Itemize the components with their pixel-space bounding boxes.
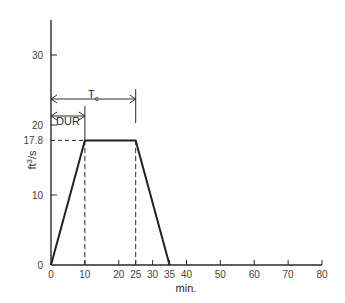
- tc-label: Tc: [88, 88, 99, 103]
- dur-label: DUR: [56, 115, 80, 127]
- y-tick-label: 10: [32, 190, 44, 201]
- x-tick-label: 20: [113, 269, 125, 280]
- y-tick-label: 30: [32, 50, 44, 61]
- x-tick-label: 60: [249, 269, 261, 280]
- y-tick-label: 20: [32, 120, 44, 131]
- y-tick-label: 17.8: [24, 135, 44, 146]
- axis-ticks: 01020253035405060708001017.82030: [24, 50, 328, 280]
- hydrograph-chart: 01020253035405060708001017.82030 min. ft…: [0, 0, 345, 303]
- y-axis-label: ft3/s: [25, 150, 38, 170]
- hydrograph-line: [51, 140, 170, 265]
- dashed-guides: [51, 140, 136, 265]
- x-tick-label: 30: [147, 269, 159, 280]
- y-tick-label: 0: [37, 260, 43, 271]
- x-tick-label: 0: [48, 269, 54, 280]
- x-tick-label: 10: [79, 269, 91, 280]
- x-tick-label: 40: [181, 269, 193, 280]
- hydrograph-polyline: [51, 140, 170, 265]
- x-tick-label: 25: [130, 269, 142, 280]
- x-tick-label: 70: [283, 269, 295, 280]
- x-axis-label: min.: [176, 282, 197, 294]
- x-tick-label: 80: [316, 269, 328, 280]
- x-tick-label: 50: [215, 269, 227, 280]
- axes: [51, 20, 322, 265]
- x-tick-label: 35: [164, 269, 176, 280]
